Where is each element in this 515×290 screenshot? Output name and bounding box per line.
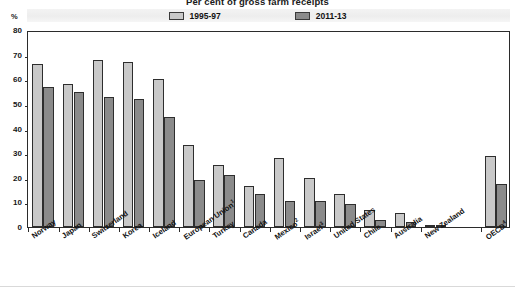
y-axis-tick-label: 50 (2, 100, 22, 109)
x-axis-tick (391, 228, 392, 232)
bar-group (395, 32, 417, 227)
x-axis-tick (240, 228, 241, 232)
y-axis-tick-label: 60 (2, 75, 22, 84)
x-axis-tick (209, 228, 210, 232)
bar (104, 97, 115, 228)
bar-group (274, 32, 296, 227)
bar (93, 60, 104, 227)
bar (244, 186, 255, 227)
y-axis-tick-label: 40 (2, 125, 22, 134)
bar (334, 194, 345, 227)
bar-group (334, 32, 356, 227)
bar (32, 64, 43, 227)
x-axis-tick (360, 228, 361, 232)
x-axis-tick (149, 228, 150, 232)
bar-groups (28, 32, 509, 227)
bar (164, 117, 175, 227)
bar-group (32, 32, 54, 227)
bar (485, 156, 496, 227)
x-axis-tick (28, 228, 29, 232)
y-axis-tick-label: 30 (2, 149, 22, 158)
bar-group (425, 32, 447, 227)
legend-swatch-2011-13 (295, 12, 310, 20)
x-axis-tick (481, 228, 482, 232)
bar-group (93, 32, 115, 227)
bar-group (244, 32, 266, 227)
y-axis-tick-label: 10 (2, 198, 22, 207)
bar-group (183, 32, 205, 227)
bar (123, 62, 134, 227)
legend-label-1995-97: 1995-97 (190, 11, 221, 21)
bar (134, 99, 145, 227)
x-axis-tick (119, 228, 120, 232)
bar (43, 87, 54, 227)
bar-group (63, 32, 85, 227)
bar (304, 178, 315, 227)
bar-group (364, 32, 386, 227)
x-axis-tick (421, 228, 422, 232)
y-axis-tick-label: 0 (2, 223, 22, 232)
legend-label-2011-13: 2011-13 (316, 11, 347, 21)
x-axis-tick (89, 228, 90, 232)
x-axis-tick (179, 228, 180, 232)
x-axis-tick (330, 228, 331, 232)
bar-group (123, 32, 145, 227)
legend-entry-1995-97: 1995-97 (169, 11, 221, 21)
bar-group (304, 32, 326, 227)
bar (153, 79, 164, 227)
bar (274, 158, 285, 227)
bottom-divider (0, 286, 515, 287)
x-axis-tick (300, 228, 301, 232)
legend-swatch-1995-97 (169, 12, 184, 20)
bar-group (153, 32, 175, 227)
chart-root: Per cent of gross farm receipts 1995-97 … (0, 0, 515, 290)
y-axis-unit-label: % (11, 12, 18, 21)
bar (183, 145, 194, 227)
y-axis-tick-label: 20 (2, 174, 22, 183)
bar (63, 84, 74, 227)
y-axis-tick-label: 70 (2, 51, 22, 60)
chart-title: Per cent of gross farm receipts (0, 0, 515, 7)
plot-area (27, 31, 510, 228)
x-axis-tick (270, 228, 271, 232)
y-axis-tick-label: 80 (2, 26, 22, 35)
chart-legend: 1995-97 2011-13 (0, 9, 515, 22)
bar-group (485, 32, 507, 227)
legend-entry-2011-13: 2011-13 (295, 11, 347, 21)
x-axis-tick (59, 228, 60, 232)
bar (74, 92, 85, 227)
